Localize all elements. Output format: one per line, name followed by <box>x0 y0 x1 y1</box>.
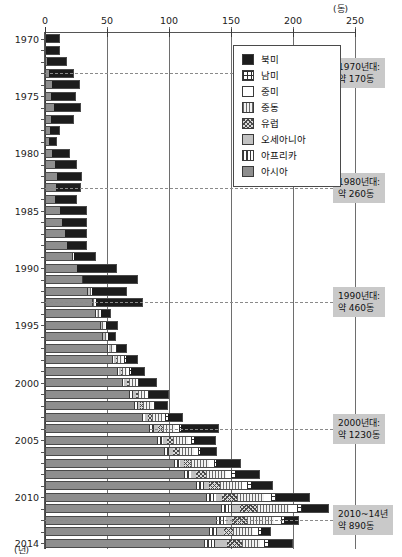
bar-segment <box>74 252 96 261</box>
legend-item-label: 중미 <box>261 86 279 97</box>
bar-segment <box>45 218 62 227</box>
x-axis-tick-label: 200 <box>284 15 302 26</box>
bar-segment <box>220 481 242 490</box>
x-axis-tick-label: 100 <box>160 15 178 26</box>
bar-segment <box>45 34 60 43</box>
legend-item-label: 아프리카 <box>261 150 297 161</box>
legend-swatch-icon <box>242 150 254 161</box>
bar-segment <box>65 229 87 238</box>
bar-row <box>45 241 355 250</box>
bar-segment <box>45 470 184 479</box>
bar-row <box>45 470 355 479</box>
bar-row <box>45 401 355 410</box>
x-axis-tickmark <box>355 29 356 37</box>
bar-segment <box>206 470 226 479</box>
legend-item-fine-vertical-dots: 중동 <box>242 100 332 114</box>
bar-segment <box>251 481 273 490</box>
bar-row <box>45 436 355 445</box>
bar-segment <box>45 378 122 387</box>
annotation-line-2: 약 890동 <box>338 520 388 532</box>
bar-row <box>45 229 355 238</box>
bar-segment <box>92 287 127 296</box>
legend-swatch-icon <box>242 134 254 145</box>
bar-segment <box>45 229 65 238</box>
legend-item-solid-light-gray: 오세아니아 <box>242 132 332 146</box>
bar-segment <box>83 275 138 284</box>
bar-segment <box>45 264 77 273</box>
bar-segment <box>179 447 194 456</box>
bar-row <box>45 218 355 227</box>
bar-segment <box>45 103 54 112</box>
legend-item-diagonal-crosshatch: 유럽 <box>242 116 332 130</box>
bar-segment <box>45 344 107 353</box>
bar-segment <box>57 172 82 181</box>
bar-segment <box>45 355 112 364</box>
bar-segment <box>173 436 188 445</box>
bar-row <box>45 355 355 364</box>
bar-row <box>45 309 355 318</box>
bar-segment <box>45 436 157 445</box>
annotation-leader-line <box>45 429 333 430</box>
annotation-line-2: 약 170동 <box>338 73 380 85</box>
bar-segment <box>62 218 87 227</box>
bar-row <box>45 413 355 422</box>
y-axis-tick-label: 1980 <box>15 148 39 159</box>
bar-segment <box>45 160 55 169</box>
bar-segment <box>45 332 102 341</box>
bar-row <box>45 447 355 456</box>
bar-segment <box>216 459 241 468</box>
bar-segment <box>52 80 79 89</box>
annotation-line-2: 약 1230동 <box>338 429 380 441</box>
legend-item-label: 아시아 <box>261 166 288 177</box>
bar-segment <box>45 481 196 490</box>
bar-segment <box>108 332 115 341</box>
bar-segment <box>221 504 232 513</box>
bar-row <box>45 344 355 353</box>
x-axis-unit-label: (동) <box>333 2 348 15</box>
bar-segment <box>224 527 234 536</box>
legend-item-grid-crosshatch: 남미 <box>242 68 332 82</box>
legend-swatch-icon <box>242 102 254 113</box>
bar-segment <box>45 149 52 158</box>
bar-segment <box>155 401 167 410</box>
legend-item-label: 유럽 <box>261 118 279 129</box>
bar-segment <box>233 527 253 536</box>
legend-item-label: 북미 <box>261 54 279 65</box>
bar-row <box>45 459 355 468</box>
bar-segment <box>194 436 216 445</box>
bar-segment <box>240 504 257 513</box>
bar-segment <box>242 539 259 548</box>
bar-row <box>45 390 355 399</box>
bar-segment <box>209 527 218 536</box>
annotation-leader-line <box>45 302 333 303</box>
bar-row <box>45 195 355 204</box>
legend-item-solid-mid-gray: 아시아 <box>242 164 332 178</box>
chart-legend: 북미남미중미중동유럽오세아니아아프리카아시아 <box>233 45 341 187</box>
legend-swatch-icon <box>242 54 254 65</box>
bar-segment <box>45 493 206 502</box>
legend-item-label: 중동 <box>261 102 279 113</box>
y-axis-tick-label: 1970 <box>15 33 39 44</box>
bar-segment <box>50 126 60 135</box>
y-axis-tick-label: 2005 <box>15 435 39 446</box>
bar-segment <box>261 527 271 536</box>
bar-segment <box>45 252 72 261</box>
bar-segment <box>200 447 217 456</box>
bar-segment <box>276 493 311 502</box>
bar-segment <box>55 195 77 204</box>
bar-row <box>45 252 355 261</box>
legend-item-solid-black: 북미 <box>242 52 332 66</box>
annotation-line-1: 2010~14년 <box>338 508 388 520</box>
bar-row <box>45 287 355 296</box>
bar-segment <box>191 459 208 468</box>
bar-segment <box>106 321 118 330</box>
bar-segment <box>45 447 164 456</box>
bar-segment <box>45 80 52 89</box>
legend-item-label: 남미 <box>261 70 279 81</box>
bar-row <box>45 378 355 387</box>
annotation-line-1: 1980년대: <box>338 176 380 188</box>
bar-segment <box>45 413 142 422</box>
bar-segment <box>302 504 329 513</box>
bar-row <box>45 275 355 284</box>
annotation-leader-line <box>45 520 333 521</box>
